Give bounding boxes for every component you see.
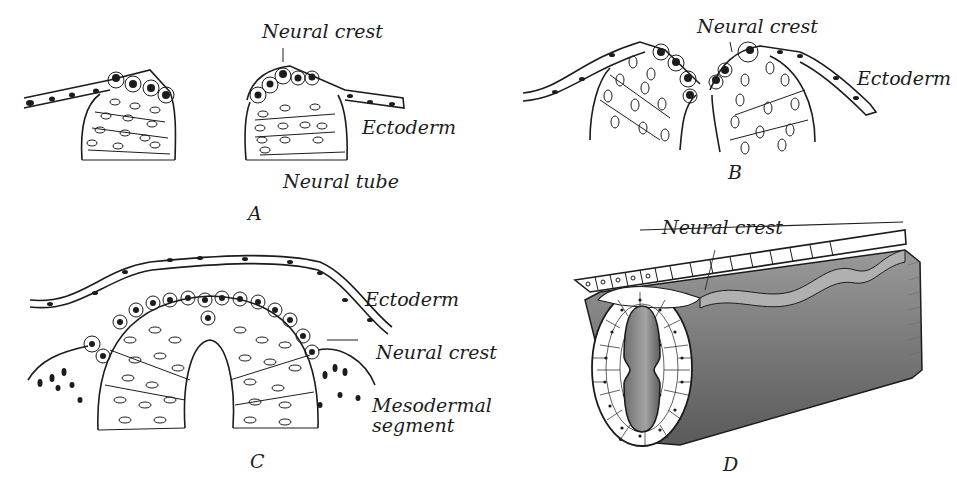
panel-letter-d: D <box>723 455 738 474</box>
panel-c-drawing <box>28 256 392 430</box>
label-a-ectoderm: Ectoderm <box>362 118 456 137</box>
label-c-mesodermal: Mesodermal <box>372 396 492 415</box>
panel-letter-b: B <box>728 163 742 182</box>
panel-b-drawing <box>523 42 876 154</box>
panel-a-drawing <box>24 48 404 160</box>
panel-letter-a: A <box>248 204 262 223</box>
label-a-neural-tube: Neural tube <box>283 172 399 191</box>
label-c-neural-crest: Neural crest <box>376 343 497 362</box>
label-a-neural-crest: Neural crest <box>262 22 383 41</box>
label-b-ectoderm: Ectoderm <box>857 69 951 88</box>
label-c-segment: segment <box>372 416 454 435</box>
panel-d-drawing <box>575 222 922 446</box>
label-c-ectoderm: Ectoderm <box>365 290 459 309</box>
label-b-neural-crest: Neural crest <box>697 17 818 36</box>
label-d-neural-crest: Neural crest <box>662 218 783 237</box>
panel-letter-c: C <box>250 452 265 471</box>
figure-canvas: Neural crest Ectoderm Neural tube A Neur… <box>0 0 957 478</box>
